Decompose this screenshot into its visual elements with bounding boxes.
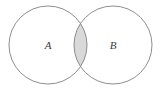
- set-a-label: A: [44, 39, 52, 51]
- set-b-label: B: [110, 39, 117, 51]
- venn-diagram-figure: A B: [0, 0, 164, 90]
- venn-diagram-canvas: A B: [0, 0, 164, 90]
